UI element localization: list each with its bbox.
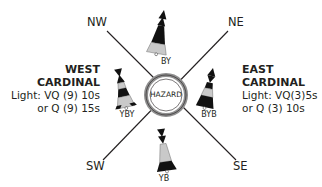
west-cardinal-title-line2: CARDINAL xyxy=(11,76,100,89)
west-mark-code: YBY xyxy=(120,110,135,119)
east-cardinal-light-line2: or Q (3) 10s xyxy=(242,102,318,115)
north-cardinal-buoy-icon xyxy=(146,8,174,57)
east-cardinal-text: EAST CARDINAL Light: VQ(3)5s or Q (3) 10… xyxy=(242,63,318,115)
direction-label-se: SE xyxy=(233,160,248,172)
south-cardinal-buoy-icon xyxy=(151,128,177,175)
west-cardinal-title-line1: WEST xyxy=(11,63,100,76)
east-mark-code: BYB xyxy=(201,110,216,119)
west-cardinal-text: WEST CARDINAL Light: VQ (9) 10s or Q (9)… xyxy=(11,63,100,115)
west-cardinal-light-line1: Light: VQ (9) 10s xyxy=(11,89,100,102)
east-cardinal-buoy-icon xyxy=(195,66,221,111)
hazard-label: HAZARD xyxy=(150,91,182,99)
east-cardinal-title-line1: EAST xyxy=(242,63,318,76)
north-mark-code: BY xyxy=(161,57,171,66)
east-cardinal-light-line1: Light: VQ(3)5s xyxy=(242,89,318,102)
direction-label-ne: NE xyxy=(228,16,244,28)
west-cardinal-buoy-icon xyxy=(107,67,137,112)
east-cardinal-title-line2: CARDINAL xyxy=(242,76,318,89)
direction-label-nw: NW xyxy=(87,16,107,28)
direction-label-sw: SW xyxy=(86,160,105,172)
south-mark-code: YB xyxy=(159,174,169,183)
west-cardinal-light-line2: or Q (9) 15s xyxy=(11,102,100,115)
